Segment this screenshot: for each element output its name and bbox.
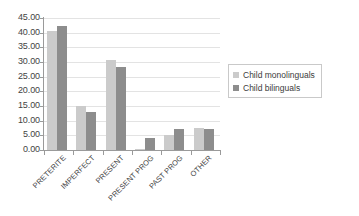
bar xyxy=(194,128,204,150)
bar-chart: 45.0040.0035.0030.0025.0020.0015.0010.00… xyxy=(0,0,359,216)
legend-item-label: Child bilinguals xyxy=(243,83,300,93)
y-axis-tick-label: 15.00 xyxy=(2,101,40,110)
y-axis-tick-label: 45.00 xyxy=(2,13,40,22)
plot-area xyxy=(44,18,220,150)
bar xyxy=(174,129,184,150)
legend: Child monolingualsChild bilinguals xyxy=(228,64,322,98)
y-axis-tick-label: 25.00 xyxy=(2,72,40,81)
y-axis-tick-label: 5.00 xyxy=(2,130,40,139)
x-axis-tick-mark xyxy=(161,151,162,155)
bar xyxy=(164,135,174,150)
x-axis-tick-mark xyxy=(191,151,192,155)
x-axis-tick-mark xyxy=(73,151,74,155)
bar-group xyxy=(103,18,132,150)
legend-item-label: Child monolinguals xyxy=(243,70,315,80)
bar-group xyxy=(73,18,102,150)
bar xyxy=(145,138,155,150)
bar xyxy=(47,31,57,150)
x-axis: PRETERITEIMPERFECTPRESENTPRESENT PROGPAS… xyxy=(0,150,359,216)
y-axis-tick-mark xyxy=(40,106,44,107)
bar xyxy=(76,106,86,150)
bar xyxy=(86,112,96,150)
bar-group xyxy=(44,18,73,150)
y-axis-line xyxy=(43,17,44,151)
legend-swatch-icon xyxy=(233,72,239,78)
bar-group xyxy=(132,18,161,150)
legend-swatch-icon xyxy=(233,85,239,91)
y-axis-tick-mark xyxy=(40,18,44,19)
x-axis-tick-mark xyxy=(220,151,221,155)
bar xyxy=(204,129,214,150)
bar xyxy=(106,60,116,150)
x-axis-tick-mark xyxy=(132,151,133,155)
y-axis-tick-mark xyxy=(40,121,44,122)
y-axis-tick-mark xyxy=(40,77,44,78)
y-axis-tick-label: 10.00 xyxy=(2,116,40,125)
legend-item[interactable]: Child bilinguals xyxy=(233,81,315,94)
bar xyxy=(57,26,67,150)
bar-group xyxy=(191,18,220,150)
y-axis-tick-mark xyxy=(40,91,44,92)
y-axis-tick-mark xyxy=(40,135,44,136)
legend-item[interactable]: Child monolinguals xyxy=(233,68,315,81)
y-axis-tick-label: 35.00 xyxy=(2,42,40,51)
y-axis-tick-mark xyxy=(40,62,44,63)
y-axis-tick-label: 40.00 xyxy=(2,28,40,37)
x-axis-tick-mark xyxy=(103,151,104,155)
bar xyxy=(116,67,126,150)
y-axis-tick-label: 30.00 xyxy=(2,57,40,66)
bar-group xyxy=(161,18,190,150)
y-axis-tick-mark xyxy=(40,33,44,34)
y-axis-tick-label: 20.00 xyxy=(2,86,40,95)
y-axis-tick-mark xyxy=(40,47,44,48)
x-axis-tick-mark xyxy=(44,151,45,155)
x-axis-tick-label: OTHER xyxy=(189,154,214,179)
